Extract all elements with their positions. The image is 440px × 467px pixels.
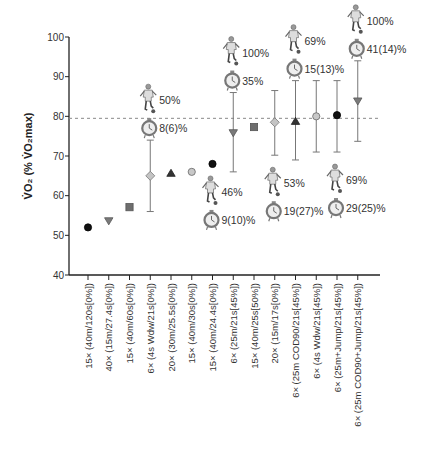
- x-tick-label: 6× (25m COD90+Jump/21s[45%]): [352, 283, 363, 427]
- watch-percentage: 19(27)%: [284, 205, 324, 217]
- data-point-triangle-up: [167, 169, 175, 176]
- annotations: 50%8(6)%46%9(10)%100%35%53%19(27)%69%15(…: [140, 5, 406, 230]
- x-tick-label: 15× (40m/120s[0%]): [83, 283, 94, 369]
- player-percentage: 69%: [346, 174, 367, 186]
- data-point-diamond: [146, 171, 155, 180]
- x-tick-label: 6× (4s Wdw/21s[45%]): [311, 283, 322, 379]
- x-tick-label: 6× (25m+Jump/21s[45%]): [332, 283, 343, 392]
- player-legs: [208, 193, 216, 202]
- data-point-triangle-down: [105, 218, 113, 225]
- watch-percentage: 29(25)%: [346, 202, 386, 214]
- y-tick-label: 70: [53, 151, 65, 162]
- x-tick-label: 15× (40m/24.4s[0%]): [207, 283, 218, 371]
- watch-percentage: 9(10)%: [222, 214, 256, 226]
- player-head: [270, 167, 275, 172]
- data-point-triangle-down: [354, 98, 362, 105]
- soccer-player-icon: [140, 84, 156, 113]
- annotation-group: 46%9(10)%: [203, 176, 256, 230]
- player-legs: [353, 22, 361, 31]
- soccer-ball: [338, 189, 342, 193]
- soccer-player-icon: [203, 176, 219, 205]
- data-point-circle: [209, 160, 216, 167]
- player-legs: [228, 54, 236, 63]
- x-tick-label: 6× (25m COD90/21s[45%]): [290, 283, 301, 398]
- soccer-player-icon: [327, 164, 343, 193]
- watch-percentage: 15(13)%: [305, 63, 345, 75]
- player-head: [291, 25, 296, 30]
- x-tick-label: 6× (4s Wdw/21s[0%]): [145, 283, 156, 374]
- stopwatch-icon: [350, 39, 364, 59]
- y-axis-label: V̇O₂ (% V̇O₂max): [22, 112, 34, 199]
- player-percentage: 100%: [242, 47, 269, 59]
- x-tick-label: 40× (15m/27.4s[0%]): [103, 283, 114, 371]
- data-point-diamond: [270, 118, 279, 127]
- watch-percentage: 41(14)%: [367, 43, 407, 55]
- soccer-ball: [359, 30, 363, 34]
- stopwatch-icon: [329, 198, 343, 218]
- soccer-player-icon: [348, 5, 364, 34]
- watch-percentage: 8(6)%: [159, 122, 187, 134]
- y-tick-label: 60: [53, 190, 65, 201]
- stopwatch-icon: [142, 118, 156, 138]
- y-tick-label: 40: [53, 270, 65, 281]
- player-body: [226, 43, 236, 54]
- soccer-ball: [297, 50, 301, 54]
- soccer-ball: [276, 192, 280, 196]
- annotation-group: 69%29(25)%: [327, 164, 386, 218]
- player-head: [208, 176, 213, 181]
- vo2-chart: 405060708090100 15× (40m/120s[0%])40× (1…: [0, 0, 440, 467]
- player-percentage: 100%: [367, 15, 394, 27]
- player-body: [351, 11, 361, 22]
- stopwatch-icon: [267, 201, 281, 221]
- player-body: [289, 31, 299, 42]
- player-head: [333, 164, 338, 169]
- soccer-player-icon: [265, 167, 281, 196]
- player-legs: [270, 184, 278, 193]
- data-point-square: [250, 123, 257, 130]
- y-tick-label: 90: [53, 71, 65, 82]
- x-tick-label: 6× (25m/21s[45%]): [228, 283, 239, 364]
- data-point-circle: [333, 112, 340, 119]
- stopwatch-icon: [205, 210, 219, 230]
- watch-percentage: 35%: [242, 75, 263, 87]
- soccer-ball: [234, 62, 238, 66]
- stopwatch-icon: [225, 71, 239, 91]
- player-head: [146, 84, 151, 89]
- data-point-triangle-down: [229, 130, 237, 137]
- player-body: [206, 182, 216, 193]
- player-body: [268, 173, 278, 184]
- annotation-group: 50%8(6)%: [140, 84, 187, 138]
- player-body: [330, 170, 340, 181]
- annotation-group: 53%19(27)%: [265, 167, 324, 221]
- x-tick-label: 15× (40m/25s[50%]): [249, 283, 260, 369]
- player-legs: [145, 101, 153, 110]
- y-tick-label: 50: [53, 230, 65, 241]
- soccer-player-icon: [286, 25, 302, 54]
- soccer-ball: [151, 109, 155, 113]
- soccer-ball: [214, 201, 218, 205]
- annotation-group: 69%15(13)%: [286, 25, 345, 79]
- data-point-circle: [84, 224, 91, 231]
- player-legs: [332, 181, 340, 190]
- data-point-circle: [188, 168, 195, 175]
- player-percentage: 46%: [222, 186, 243, 198]
- player-percentage: 50%: [159, 94, 180, 106]
- player-legs: [291, 42, 299, 51]
- x-tick-label: 20× (15m/17s[0%]): [269, 283, 280, 364]
- y-tick-label: 80: [53, 111, 65, 122]
- player-head: [229, 37, 234, 42]
- player-percentage: 53%: [284, 177, 305, 189]
- annotation-group: 100%41(14)%: [348, 5, 407, 59]
- y-ticks: 405060708090100: [47, 32, 69, 281]
- soccer-player-icon: [223, 37, 239, 66]
- x-tick-label: 20× (30m/25.5s[0%]): [166, 283, 177, 371]
- x-tick-label: 15× (40m/30s[0%]): [186, 283, 197, 364]
- player-percentage: 69%: [305, 35, 326, 47]
- annotation-group: 100%35%: [223, 37, 269, 91]
- y-tick-label: 100: [47, 32, 64, 43]
- data-point-circle: [313, 113, 320, 120]
- data-point-square: [126, 204, 133, 211]
- x-tick-label: 15× (40m/60s[0%]): [124, 283, 135, 364]
- stopwatch-icon: [288, 59, 302, 79]
- player-body: [143, 90, 153, 101]
